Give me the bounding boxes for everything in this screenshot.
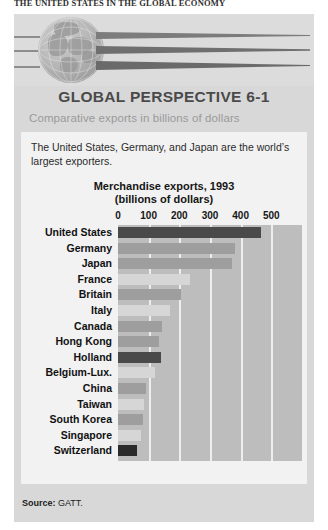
source-value: GATT. <box>58 498 83 508</box>
x-tick-400: 400 <box>232 210 249 221</box>
category-label-taiwan: Taiwan <box>77 399 112 410</box>
banner-illustration <box>14 14 314 86</box>
category-label-italy: Italy <box>91 305 112 316</box>
speed-streak-1 <box>96 32 310 39</box>
bar-belgium-lux- <box>118 367 155 378</box>
chart-title-line2: (billions of dollars) <box>21 193 307 206</box>
x-axis-tick-labels: 0100200300400500 <box>21 210 307 223</box>
category-label-singapore: Singapore <box>61 430 112 441</box>
category-label-south-korea: South Korea <box>50 414 112 425</box>
category-label-united-states: United States <box>45 227 112 238</box>
category-labels: United StatesGermanyJapanFranceBritainIt… <box>21 225 115 461</box>
bar-china <box>118 383 146 394</box>
globe-icon <box>38 17 104 83</box>
x-tick-200: 200 <box>171 210 188 221</box>
category-label-china: China <box>83 383 112 394</box>
bar-canada <box>118 321 162 332</box>
page-root: THE UNITED STATES IN THE GLOBAL ECONOMY <box>0 0 328 530</box>
global-perspective-title: GLOBAL PERSPECTIVE 6-1 <box>14 88 314 106</box>
running-head: THE UNITED STATES IN THE GLOBAL ECONOMY <box>14 0 225 8</box>
x-tick-0: 0 <box>115 210 121 221</box>
blurb-text: The United States, Germany, and Japan ar… <box>31 141 297 168</box>
category-label-holland: Holland <box>74 352 113 363</box>
category-label-britain: Britain <box>79 289 112 300</box>
category-label-germany: Germany <box>66 243 112 254</box>
source-note: Source: GATT. <box>22 498 83 508</box>
chart-title: Merchandise exports, 1993 (billions of d… <box>21 180 307 206</box>
category-label-france: France <box>78 274 112 285</box>
chart-title-line1: Merchandise exports, 1993 <box>21 180 307 193</box>
globe-graticule-icon <box>38 17 104 83</box>
source-label: Source: <box>22 498 56 508</box>
bar-chart-plot-area <box>118 225 302 461</box>
bar-united-states <box>118 227 261 238</box>
global-perspective-subtitle: Comparative exports in billions of dolla… <box>29 112 304 124</box>
streak-tick-3 <box>14 66 40 68</box>
category-label-switzerland: Switzerland <box>54 445 112 456</box>
x-tick-500: 500 <box>263 210 280 221</box>
bar-japan <box>118 258 232 269</box>
bar-taiwan <box>118 399 144 410</box>
x-tick-300: 300 <box>202 210 219 221</box>
bar-britain <box>118 289 181 300</box>
category-label-hong-kong: Hong Kong <box>55 336 112 347</box>
bar-holland <box>118 352 161 363</box>
bar-italy <box>118 305 170 316</box>
global-perspective-box: GLOBAL PERSPECTIVE 6-1 Comparative expor… <box>14 14 314 522</box>
speed-streak-3 <box>96 61 310 70</box>
bar-germany <box>118 243 235 254</box>
category-label-japan: Japan <box>82 258 112 269</box>
content-card: The United States, Germany, and Japan ar… <box>21 132 307 484</box>
streak-tick-2 <box>14 50 40 52</box>
bar-hong-kong <box>118 336 159 347</box>
streak-tick-1 <box>14 36 40 38</box>
bar-france <box>118 274 190 285</box>
bar-switzerland <box>118 445 137 456</box>
category-label-belgium-lux-: Belgium-Lux. <box>45 367 112 378</box>
gridline-400 <box>241 225 243 461</box>
bar-south-korea <box>118 414 143 425</box>
category-label-canada: Canada <box>74 321 112 332</box>
gridline-500 <box>271 225 273 461</box>
x-tick-100: 100 <box>140 210 157 221</box>
speed-streak-2 <box>96 46 310 54</box>
bar-singapore <box>118 430 141 441</box>
